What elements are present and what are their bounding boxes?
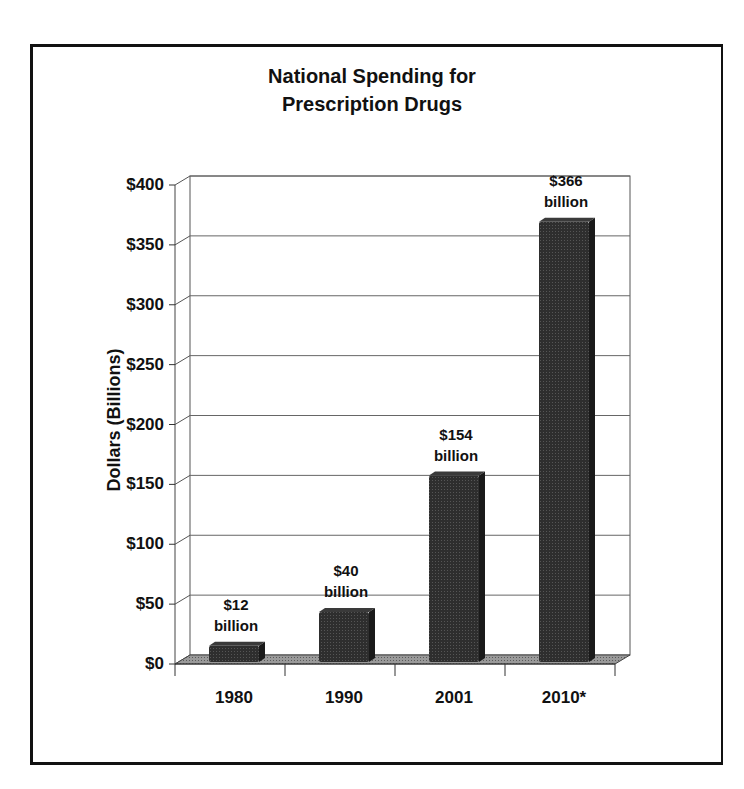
- data-label: $12billion: [186, 594, 286, 636]
- y-tick-label: $300: [104, 295, 164, 315]
- x-tick-label: 1990: [294, 688, 394, 708]
- y-tick-label: $50: [104, 594, 164, 614]
- data-label: $154billion: [406, 424, 506, 466]
- y-tick-label: $200: [104, 415, 164, 435]
- y-tick-label: $350: [104, 235, 164, 255]
- x-tick-label: 1980: [184, 688, 284, 708]
- data-label: $40billion: [296, 560, 396, 602]
- y-tick-label: $400: [104, 175, 164, 195]
- y-tick-label: $0: [104, 654, 164, 674]
- x-tick-label: 2001: [404, 688, 504, 708]
- data-label: $366billion: [516, 170, 616, 212]
- x-tick-label: 2010*: [514, 688, 614, 708]
- y-tick-label: $250: [104, 355, 164, 375]
- y-tick-label: $150: [104, 474, 164, 494]
- y-tick-label: $100: [104, 534, 164, 554]
